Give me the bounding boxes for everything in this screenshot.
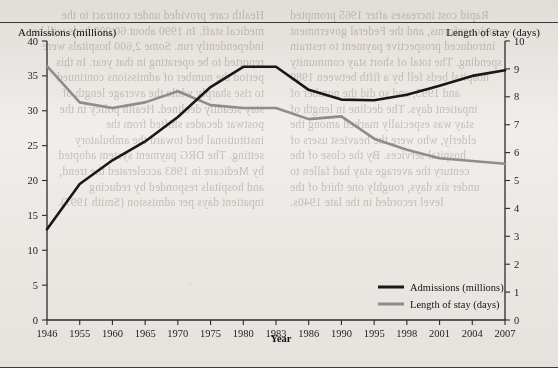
left-axis-tick-label: 25 — [28, 140, 39, 151]
left-axis-tick-label: 5 — [33, 280, 38, 291]
x-axis-title: Year — [271, 333, 292, 344]
x-axis-tick-label: 1955 — [69, 328, 90, 339]
chart-figure: Admissions (millions) Length of stay (da… — [0, 22, 558, 368]
right-axis-tick-label: 4 — [514, 203, 520, 214]
right-y-axis: 012345678910 — [505, 36, 525, 326]
left-axis-tick-label: 15 — [28, 210, 39, 221]
left-axis-tick-label: 40 — [28, 36, 39, 47]
x-axis-tick-label: 1980 — [233, 328, 254, 339]
left-axis-tick-label: 30 — [28, 105, 39, 116]
x-axis-tick-label: 1965 — [135, 328, 156, 339]
x-axis-tick-label: 2007 — [495, 328, 516, 339]
legend-label: Length of stay (days) — [410, 299, 500, 311]
x-axis-tick-label: 1960 — [102, 328, 123, 339]
scanned-page: Health care provided under contract to t… — [0, 0, 558, 368]
right-axis-tick-label: 8 — [514, 91, 519, 102]
right-axis-tick-label: 9 — [514, 64, 519, 75]
x-axis-tick-label: 1995 — [364, 328, 385, 339]
right-axis-tick-label: 6 — [514, 147, 519, 158]
left-y-axis: 0510152025303540 — [28, 36, 48, 326]
series-line-length-of-stay — [47, 66, 505, 164]
right-axis-tick-label: 10 — [514, 36, 525, 47]
x-axis-tick-label: 1990 — [331, 328, 352, 339]
x-axis-tick-label: 1970 — [167, 328, 188, 339]
x-axis-tick-label: 1986 — [298, 328, 319, 339]
x-axis-tick-label: 1998 — [396, 328, 417, 339]
series-line-admissions — [47, 67, 505, 230]
right-axis-tick-label: 1 — [514, 287, 519, 298]
x-axis-tick-label: 2004 — [462, 328, 484, 339]
x-axis-tick-label: 1975 — [200, 328, 221, 339]
right-axis-title: Length of stay (days) — [446, 26, 540, 39]
right-axis-tick-label: 2 — [514, 259, 519, 270]
x-axis-tick-label: 1946 — [37, 328, 58, 339]
right-axis-tick-label: 3 — [514, 231, 519, 242]
right-axis-tick-label: 0 — [514, 315, 519, 326]
legend-label: Admissions (millions) — [410, 282, 504, 294]
left-axis-tick-label: 10 — [28, 245, 39, 256]
right-axis-tick-label: 5 — [514, 175, 519, 186]
left-axis-tick-label: 20 — [28, 175, 39, 186]
x-axis-tick-label: 2001 — [429, 328, 450, 339]
left-axis-tick-label: 0 — [33, 315, 38, 326]
right-axis-tick-label: 7 — [514, 119, 519, 130]
chart-legend: Admissions (millions)Length of stay (day… — [378, 282, 504, 311]
dual-axis-line-chart: Admissions (millions) Length of stay (da… — [0, 22, 558, 368]
left-axis-tick-label: 35 — [28, 70, 39, 81]
